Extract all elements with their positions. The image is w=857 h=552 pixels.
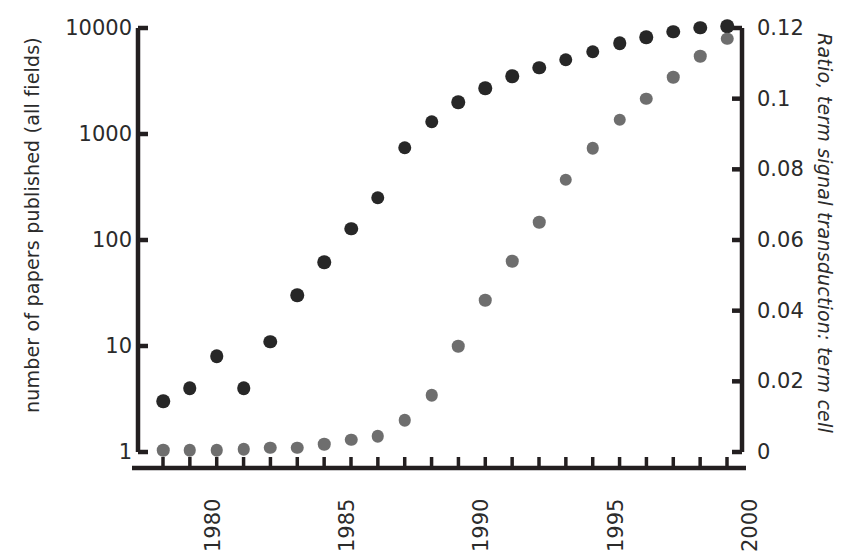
ratio-data-point bbox=[210, 444, 223, 457]
left-axis-title: number of papers published (all fields) bbox=[21, 5, 43, 445]
left-axis-tick-labels: 110100100010000 bbox=[28, 0, 132, 539]
papers-data-point bbox=[425, 115, 439, 129]
papers-data-point bbox=[586, 45, 600, 59]
left-axis-tick-label: 1000 bbox=[32, 122, 132, 146]
ratio-data-point bbox=[318, 438, 331, 451]
x-axis-tick-label: 1985 bbox=[335, 482, 359, 552]
ratio-data-point bbox=[398, 414, 411, 427]
papers-data-point bbox=[720, 19, 734, 33]
papers-data-point bbox=[452, 95, 466, 109]
ratio-data-point bbox=[264, 442, 277, 455]
ratio-data-point bbox=[533, 216, 546, 229]
papers-data-point bbox=[693, 21, 707, 35]
papers-data-point bbox=[667, 25, 681, 39]
x-axis-tick-label: 1980 bbox=[201, 482, 225, 552]
x-axis-tick-label: 1995 bbox=[604, 482, 628, 552]
ratio-data-point bbox=[184, 444, 197, 457]
x-axis-tick-label: 2000 bbox=[738, 482, 762, 552]
ratio-data-point bbox=[506, 255, 519, 268]
ratio-data-point bbox=[694, 50, 707, 63]
left-axis-tick-label: 1 bbox=[32, 440, 132, 464]
papers-data-point bbox=[210, 350, 224, 364]
papers-data-point bbox=[479, 82, 493, 96]
papers-data-point bbox=[264, 335, 278, 349]
ratio-data-point bbox=[157, 444, 170, 457]
right-axis-title: Ratio, term signal transduction: term ce… bbox=[814, 13, 836, 453]
papers-data-point bbox=[371, 191, 385, 205]
papers-data-point bbox=[640, 30, 654, 44]
papers-data-point bbox=[156, 395, 170, 409]
left-axis-tick-label: 10000 bbox=[32, 16, 132, 40]
ratio-data-point bbox=[372, 430, 385, 443]
papers-data-point bbox=[559, 53, 573, 67]
papers-data-point bbox=[505, 70, 519, 84]
ratio-data-point bbox=[586, 142, 599, 155]
papers-data-point bbox=[183, 381, 197, 395]
ratio-data-point bbox=[560, 174, 573, 187]
ratio-data-point bbox=[479, 294, 492, 307]
ratio-data-point bbox=[452, 340, 465, 353]
papers-data-point bbox=[317, 255, 331, 269]
x-axis-tick-label: 1990 bbox=[469, 482, 493, 552]
ratio-data-point bbox=[721, 32, 734, 45]
papers-data-point bbox=[344, 222, 358, 236]
papers-data-point bbox=[532, 61, 546, 75]
papers-data-point bbox=[237, 381, 251, 395]
ratio-data-point bbox=[345, 433, 358, 446]
ratio-data-point bbox=[667, 71, 680, 84]
ratio-data-point bbox=[640, 92, 653, 105]
ratio-data-point bbox=[291, 442, 304, 455]
papers-data-point bbox=[398, 141, 412, 155]
ratio-data-point bbox=[425, 389, 438, 402]
left-axis-tick-label: 100 bbox=[32, 228, 132, 252]
ratio-data-point bbox=[237, 443, 250, 456]
left-axis-tick-label: 10 bbox=[32, 334, 132, 358]
ratio-data-point bbox=[613, 114, 626, 127]
papers-data-point bbox=[291, 289, 305, 303]
papers-data-point bbox=[613, 36, 627, 50]
